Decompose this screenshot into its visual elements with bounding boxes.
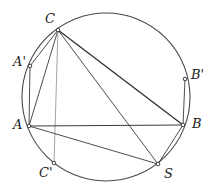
segment-A-Aprime [29, 66, 30, 126]
point-marker-Aprime [28, 64, 32, 68]
point-label-A: A [13, 118, 22, 131]
point-marker-Cprime [52, 161, 56, 165]
segment-C-Aprime [30, 30, 58, 66]
segment-C-Cprime [54, 30, 58, 163]
point-label-S: S [164, 167, 173, 180]
point-label-Bprime: B' [191, 68, 204, 81]
segment-C-S [58, 30, 158, 164]
segment-C-B [58, 30, 183, 125]
point-label-B: B [192, 117, 202, 130]
segment-B-Bprime [183, 79, 185, 125]
segment-C-A [29, 30, 58, 126]
segment-S-B [158, 125, 183, 164]
geometry-figure: C A' B' A B C' S [0, 0, 213, 193]
point-label-C: C [45, 12, 55, 25]
point-marker-Bprime [183, 77, 187, 81]
main-circle [22, 13, 190, 181]
segment-A-B [29, 125, 183, 126]
point-marker-B [181, 123, 185, 127]
geometry-canvas [0, 0, 213, 193]
point-label-Aprime: A' [13, 55, 26, 68]
point-marker-A [27, 124, 31, 128]
point-label-Cprime: C' [39, 166, 53, 179]
point-marker-C [56, 28, 60, 32]
point-marker-S [156, 162, 160, 166]
